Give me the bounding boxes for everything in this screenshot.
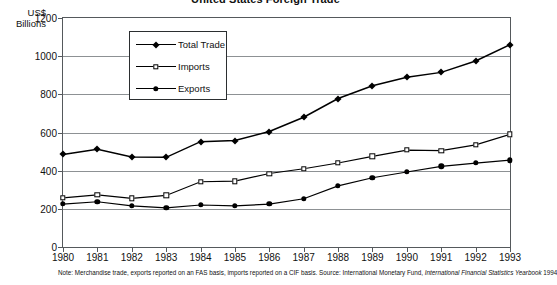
- x-axis-tickmark: [201, 247, 202, 252]
- data-point-marker: [404, 147, 409, 152]
- data-point-marker: [301, 166, 306, 171]
- data-point-marker: [439, 148, 444, 153]
- data-point-marker: [232, 178, 237, 183]
- y-axis-tick-label: 1200: [17, 13, 57, 24]
- data-point-marker: [507, 157, 512, 162]
- x-axis-tickmark: [235, 247, 236, 252]
- chart-footnote: Note: Merchandise trade, exports reporte…: [58, 269, 531, 277]
- y-axis-tick-label: 400: [17, 165, 57, 176]
- legend-label-imports: Imports: [178, 61, 210, 72]
- x-axis-tickmark: [372, 247, 373, 252]
- y-axis-tickmark: [58, 171, 63, 172]
- data-point-marker: [95, 192, 100, 197]
- y-axis-tick-label: 200: [17, 203, 57, 214]
- x-axis-tickmark: [132, 247, 133, 252]
- y-axis-tick-label: 0: [17, 242, 57, 253]
- footnote-suffix: 1994: [542, 269, 557, 276]
- legend-marker-open-square-icon: [134, 61, 178, 73]
- x-axis-tickmark: [63, 247, 64, 252]
- data-point-marker: [267, 171, 272, 176]
- y-axis-tickmark: [58, 18, 63, 19]
- legend-marker-filled-diamond-icon: [134, 39, 178, 51]
- data-point-marker: [163, 193, 168, 198]
- y-axis-tick-label: 600: [17, 127, 57, 138]
- y-axis-tickmark: [58, 209, 63, 210]
- legend-item-total-trade[interactable]: Total Trade: [130, 33, 228, 56]
- footnote-source-title: International Financial Statistics Yearb…: [425, 269, 542, 276]
- data-point-marker: [129, 196, 134, 201]
- legend-item-imports[interactable]: Imports: [130, 55, 228, 78]
- x-axis-tickmark: [476, 247, 477, 252]
- y-axis-tickmark: [58, 94, 63, 95]
- data-point-marker: [198, 179, 203, 184]
- y-axis-tick-label: 800: [17, 89, 57, 100]
- y-axis-tick-label: 1000: [17, 51, 57, 62]
- x-axis-tickmark: [407, 247, 408, 252]
- legend-label-total-trade: Total Trade: [178, 39, 225, 50]
- x-axis-tickmark: [97, 247, 98, 252]
- data-point-marker: [60, 195, 65, 200]
- footnote-prefix: Note: Merchandise trade, exports reporte…: [58, 269, 425, 276]
- chart-legend: Total Trade Imports Exports: [129, 31, 227, 100]
- legend-label-exports: Exports: [178, 83, 210, 94]
- legend-item-exports[interactable]: Exports: [130, 77, 228, 100]
- x-axis-tickmark: [441, 247, 442, 252]
- x-axis-tickmark: [269, 247, 270, 252]
- chart-title: United States Foreign Trade: [0, 0, 531, 5]
- data-point-marker: [473, 142, 478, 147]
- data-point-marker: [370, 154, 375, 159]
- legend-marker-filled-circle-icon: [134, 83, 178, 95]
- y-axis-tickmark: [58, 56, 63, 57]
- data-point-marker: [507, 132, 512, 137]
- x-axis-tickmark: [304, 247, 305, 252]
- data-point-marker: [335, 160, 340, 165]
- x-axis-tick-label: 1993: [490, 252, 530, 263]
- x-axis-tickmark: [510, 247, 511, 252]
- x-axis-tickmark: [338, 247, 339, 252]
- y-axis-tickmark: [58, 133, 63, 134]
- x-axis-tickmark: [166, 247, 167, 252]
